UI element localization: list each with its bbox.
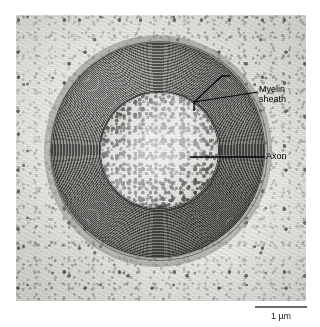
scale-bar bbox=[255, 306, 307, 308]
axoplasm-highlight bbox=[101, 93, 218, 208]
micrograph-image bbox=[16, 15, 306, 301]
label-myelin-sheath: Myelinsheath bbox=[259, 84, 286, 104]
electron-micrograph-figure: Myelinsheath Axon 1 µm bbox=[0, 0, 320, 327]
label-myelin-sheath-line1: Myelin bbox=[259, 84, 285, 94]
label-myelin-sheath-line2: sheath bbox=[259, 94, 286, 104]
axoplasm bbox=[101, 93, 218, 208]
label-axon: Axon bbox=[266, 151, 287, 161]
label-axon-text: Axon bbox=[266, 151, 287, 161]
scale-bar-label: 1 µm bbox=[255, 311, 307, 322]
